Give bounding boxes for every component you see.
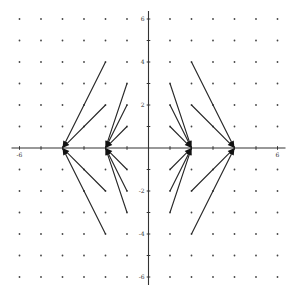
- grid-dot: [169, 233, 171, 235]
- vector-arrow: [170, 84, 192, 149]
- grid-dot: [83, 276, 85, 278]
- grid-dot: [40, 255, 42, 257]
- grid-dot: [255, 40, 257, 42]
- grid-dot: [255, 61, 257, 63]
- vector-arrow: [192, 62, 235, 148]
- grid-dot: [277, 276, 279, 278]
- y-tick-label: 2: [141, 101, 145, 108]
- grid-dot: [105, 276, 107, 278]
- grid-dot: [277, 104, 279, 106]
- grid-dot: [19, 255, 21, 257]
- grid-dot: [105, 83, 107, 85]
- grid-dot: [126, 233, 128, 235]
- grid-dot: [62, 190, 64, 192]
- grid-dot: [255, 83, 257, 85]
- grid-dot: [126, 276, 128, 278]
- vector-field-plot: -66642-2-4-6: [0, 0, 293, 300]
- grid-dot: [105, 169, 107, 171]
- grid-dot: [62, 61, 64, 63]
- x-tick-label: 6: [276, 151, 280, 158]
- vector-arrow: [63, 148, 106, 234]
- grid-dot: [40, 126, 42, 128]
- grid-dot: [40, 40, 42, 42]
- grid-dot: [277, 18, 279, 20]
- vector-arrow: [106, 148, 128, 191]
- grid-dot: [234, 40, 236, 42]
- grid-dot: [255, 255, 257, 257]
- grid-dot: [277, 40, 279, 42]
- grid-dot: [169, 61, 171, 63]
- grid-dot: [19, 126, 21, 128]
- vector-shaft: [170, 155, 189, 213]
- grid-dot: [169, 40, 171, 42]
- grid-dot: [277, 169, 279, 171]
- vector-shaft: [192, 154, 232, 234]
- grid-dot: [62, 212, 64, 214]
- grid-dot: [277, 190, 279, 192]
- vector-shaft: [170, 153, 187, 170]
- vector-shaft: [110, 127, 127, 144]
- grid-dot: [105, 255, 107, 257]
- grid-dot: [19, 169, 21, 171]
- grid-dot: [126, 18, 128, 20]
- grid-dot: [191, 276, 193, 278]
- grid-dot: [19, 276, 21, 278]
- vector-shaft: [170, 84, 189, 142]
- grid-dot: [19, 40, 21, 42]
- grid-dot: [234, 255, 236, 257]
- grid-dot: [40, 190, 42, 192]
- y-tick-label: 4: [141, 58, 145, 65]
- grid-dot: [40, 61, 42, 63]
- vector-arrow: [192, 148, 235, 191]
- vector-shaft: [67, 153, 105, 191]
- grid-dot: [255, 212, 257, 214]
- grid-dot: [62, 104, 64, 106]
- grid-dot: [234, 83, 236, 85]
- vector-arrow: [63, 62, 106, 148]
- grid-dot: [212, 18, 214, 20]
- vector-shaft: [192, 105, 230, 143]
- vector-shaft: [170, 127, 187, 144]
- grid-dot: [40, 212, 42, 214]
- grid-dot: [212, 40, 214, 42]
- grid-dot: [83, 40, 85, 42]
- grid-dot: [169, 255, 171, 257]
- grid-dot: [105, 126, 107, 128]
- grid-dot: [19, 212, 21, 214]
- vector-arrow: [105, 148, 127, 213]
- vector-shaft: [192, 153, 230, 191]
- grid-dot: [234, 61, 236, 63]
- grid-dot: [277, 233, 279, 235]
- grid-dot: [234, 126, 236, 128]
- vector-arrow: [192, 105, 235, 148]
- y-tick-label: 6: [141, 15, 145, 22]
- grid-dot: [255, 169, 257, 171]
- grid-dot: [212, 83, 214, 85]
- grid-dot: [212, 233, 214, 235]
- grid-dot: [234, 276, 236, 278]
- grid-dot: [126, 61, 128, 63]
- grid-dot: [212, 255, 214, 257]
- grid-dot: [277, 255, 279, 257]
- grid-dot: [212, 276, 214, 278]
- grid-dot: [62, 233, 64, 235]
- grid-dot: [40, 18, 42, 20]
- grid-dot: [234, 104, 236, 106]
- grid-dot: [277, 83, 279, 85]
- grid-dot: [191, 83, 193, 85]
- grid-dot: [19, 190, 21, 192]
- vector-arrow: [105, 84, 127, 149]
- grid-dot: [277, 61, 279, 63]
- grid-dot: [40, 104, 42, 106]
- grid-dot: [255, 190, 257, 192]
- grid-dot: [277, 212, 279, 214]
- vector-arrow: [63, 148, 106, 191]
- axes: [12, 11, 286, 285]
- grid-dot: [40, 233, 42, 235]
- grid-dot: [62, 276, 64, 278]
- grid-dot: [234, 18, 236, 20]
- grid-dot: [62, 169, 64, 171]
- grid-dot: [191, 255, 193, 257]
- grid-dot: [191, 18, 193, 20]
- grid-dot: [83, 233, 85, 235]
